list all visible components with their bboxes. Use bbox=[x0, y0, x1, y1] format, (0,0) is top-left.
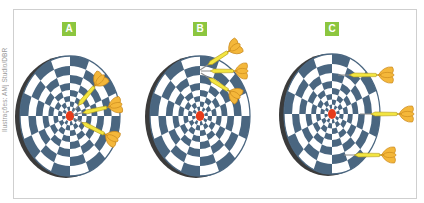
bullseye bbox=[196, 111, 204, 121]
dartboard-b bbox=[145, 37, 250, 178]
dartboard-c bbox=[279, 54, 414, 176]
dartboard-a bbox=[15, 56, 124, 178]
bullseye bbox=[328, 109, 336, 119]
board-face bbox=[20, 56, 120, 176]
board-face bbox=[150, 56, 250, 176]
